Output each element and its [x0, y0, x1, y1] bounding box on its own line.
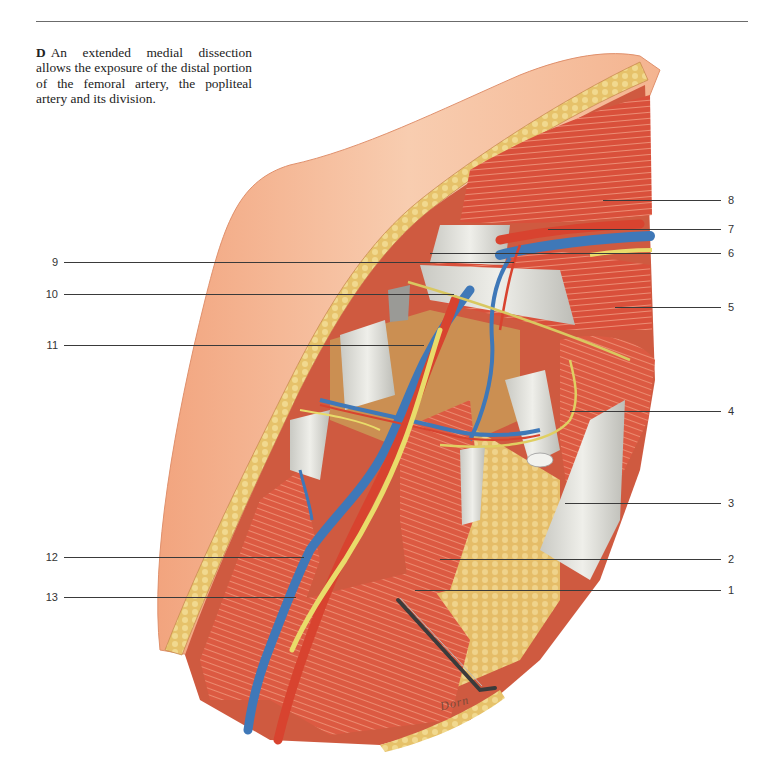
label-12: 12 [28, 551, 58, 563]
label-2: 2 [728, 553, 748, 565]
leader-line-6 [430, 253, 721, 254]
label-3: 3 [728, 497, 748, 509]
anatomical-illustration [0, 0, 772, 778]
label-8: 8 [728, 194, 748, 206]
label-10: 10 [28, 288, 58, 300]
label-4: 4 [728, 405, 748, 417]
leader-line-1 [415, 590, 721, 591]
leader-line-10 [64, 294, 454, 295]
label-9: 9 [28, 256, 58, 268]
label-1: 1 [728, 584, 748, 596]
leader-line-5 [615, 307, 721, 308]
label-13: 13 [28, 591, 58, 603]
tendon-left [340, 320, 395, 410]
leader-line-11 [64, 345, 424, 346]
cut-stump-10 [388, 285, 410, 322]
label-5: 5 [728, 301, 748, 313]
tendon-stump-end [527, 453, 553, 467]
leader-line-2 [440, 559, 721, 560]
leader-line-7 [548, 229, 721, 230]
leader-line-12 [64, 557, 304, 558]
leader-line-9 [64, 262, 514, 263]
leader-line-8 [603, 200, 721, 201]
label-6: 6 [728, 247, 748, 259]
leader-line-13 [64, 597, 296, 598]
leader-line-4 [570, 411, 721, 412]
label-11: 11 [28, 339, 58, 351]
leader-line-3 [565, 503, 721, 504]
label-7: 7 [728, 223, 748, 235]
